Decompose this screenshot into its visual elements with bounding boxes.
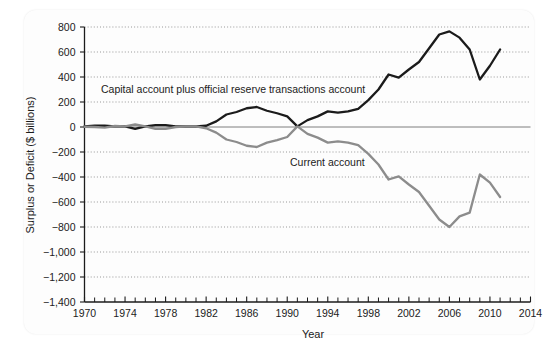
- x-tick-label: 1986: [235, 307, 259, 319]
- y-tick-label: −1,200: [43, 271, 76, 283]
- series-label-capital-account: Capital account plus official reserve tr…: [101, 83, 365, 95]
- x-tick-label: 1994: [316, 307, 340, 319]
- y-tick-label: 200: [58, 96, 76, 108]
- y-axis-tick-labels: 8006004002000−200−400−600−800−1,000−1,20…: [43, 21, 76, 308]
- x-axis: [85, 297, 531, 303]
- x-tick-label: 1998: [357, 307, 381, 319]
- x-tick-label: 2014: [519, 307, 543, 319]
- y-tick-label: −1,000: [43, 246, 76, 258]
- gridlines: [85, 27, 531, 277]
- y-axis: [80, 27, 85, 302]
- x-axis-tick-labels: 1970197419781982198619901994199820022006…: [73, 307, 543, 319]
- x-tick-label: 2006: [438, 307, 462, 319]
- y-tick-label: −800: [52, 221, 76, 233]
- y-axis-title: Surplus or Deficit ($ billions): [24, 97, 36, 234]
- x-axis-title: Year: [302, 328, 325, 340]
- x-tick-label: 1982: [194, 307, 218, 319]
- x-tick-label: 2002: [397, 307, 421, 319]
- x-tick-label: 1970: [73, 307, 97, 319]
- series-line-capital-account: [85, 31, 501, 129]
- x-tick-label: 1978: [154, 307, 178, 319]
- y-tick-label: −200: [52, 146, 76, 158]
- y-tick-label: −600: [52, 196, 76, 208]
- y-tick-label: 400: [58, 71, 76, 83]
- data-series: [85, 31, 501, 227]
- series-label-current-account: Current account: [290, 156, 365, 168]
- series-line-current-account: [85, 125, 501, 228]
- y-tick-label: −1,400: [43, 296, 76, 308]
- x-tick-label: 2010: [478, 307, 502, 319]
- balance-of-payments-line-chart: 8006004002000−200−400−600−800−1,000−1,20…: [0, 0, 558, 351]
- x-tick-label: 1974: [113, 307, 137, 319]
- chart-figure: 8006004002000−200−400−600−800−1,000−1,20…: [0, 0, 558, 351]
- y-tick-label: 600: [58, 46, 76, 58]
- y-tick-label: −400: [52, 171, 76, 183]
- y-tick-label: 800: [58, 21, 76, 33]
- y-tick-label: 0: [70, 121, 76, 133]
- x-tick-label: 1990: [276, 307, 300, 319]
